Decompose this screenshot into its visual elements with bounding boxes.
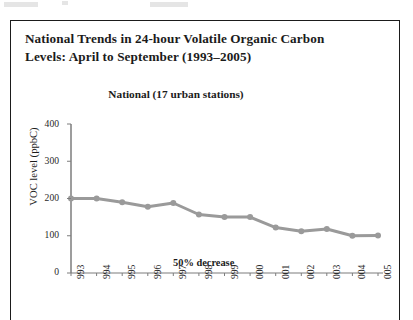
y-tick-label-200: 200 bbox=[29, 192, 59, 203]
y-tick-label-400: 400 bbox=[29, 118, 59, 129]
x-tick-label-1994: 994 bbox=[101, 265, 112, 279]
scan-artifact bbox=[4, 2, 38, 7]
y-tick-label-0: 0 bbox=[29, 266, 59, 277]
data-point-2000 bbox=[247, 214, 253, 220]
data-point-2004 bbox=[349, 233, 355, 239]
x-tick-label-2005: 005 bbox=[382, 265, 393, 279]
data-point-2001 bbox=[273, 225, 279, 231]
x-tick-label-1998: 998 bbox=[203, 265, 214, 279]
x-tick-label-1997: 997 bbox=[177, 265, 188, 279]
data-point-1994 bbox=[94, 196, 100, 202]
scan-artifact bbox=[150, 2, 188, 7]
data-point-1997 bbox=[170, 200, 176, 206]
x-tick-label-2003: 003 bbox=[331, 265, 342, 279]
x-tick-label-2002: 002 bbox=[305, 265, 316, 279]
x-tick-label-1996: 996 bbox=[152, 265, 163, 279]
data-point-2005 bbox=[375, 232, 381, 238]
figure-frame: National Trends in 24-hour Volatile Orga… bbox=[10, 20, 400, 320]
data-series-voc bbox=[67, 124, 381, 276]
y-tick-label-100: 100 bbox=[29, 229, 59, 240]
x-tick-label-2000: 000 bbox=[254, 265, 265, 279]
data-point-1998 bbox=[196, 212, 202, 218]
y-tick-label-300: 300 bbox=[29, 155, 59, 166]
data-point-1995 bbox=[119, 199, 125, 205]
data-point-1999 bbox=[222, 214, 228, 220]
x-tick-label-2004: 004 bbox=[356, 265, 367, 279]
scan-artifact bbox=[62, 1, 68, 5]
data-point-1996 bbox=[145, 204, 151, 210]
data-point-2002 bbox=[298, 228, 304, 234]
x-tick-label-2001: 001 bbox=[280, 265, 291, 279]
x-tick-label-1995: 995 bbox=[126, 265, 137, 279]
x-tick-label-1999: 999 bbox=[229, 265, 240, 279]
chart-plot-area: VOC level (ppbC) 400 300 200 100 0 50% d… bbox=[11, 21, 401, 311]
data-point-2003 bbox=[324, 226, 330, 232]
x-tick-label-1993: 993 bbox=[75, 265, 86, 279]
